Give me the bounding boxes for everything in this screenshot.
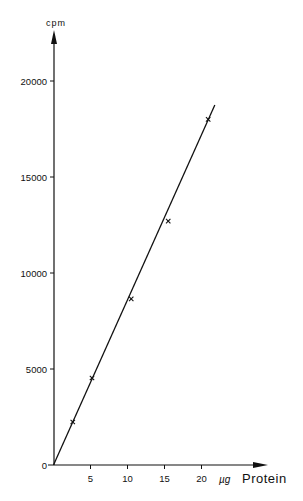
x-axis-unit: µg — [219, 474, 231, 485]
x-tick-label: 10 — [122, 473, 133, 484]
x-tick-label: 15 — [159, 473, 170, 484]
x-tick-label: 5 — [88, 473, 93, 484]
y-tick-label: 5000 — [26, 364, 47, 375]
y-axis: cpm — [46, 18, 66, 465]
y-tick-label: 0 — [42, 460, 47, 471]
y-axis-arrow-icon — [51, 30, 57, 44]
x-ticks: 5101520 — [88, 465, 207, 484]
x-marker-icon — [129, 297, 133, 301]
y-axis-title: cpm — [46, 18, 66, 28]
x-tick-label: 20 — [196, 473, 207, 484]
chart-canvas: cpm µg Protein 05000100001500020000 5101… — [0, 0, 303, 501]
y-tick-label: 15000 — [21, 172, 47, 183]
x-axis-title: Protein — [242, 471, 287, 486]
y-tick-label: 20000 — [21, 76, 47, 87]
x-marker-icon — [166, 219, 170, 223]
regression-line — [54, 105, 215, 465]
y-tick-label: 10000 — [21, 268, 47, 279]
y-ticks: 05000100001500020000 — [21, 76, 54, 471]
x-axis-arrow-icon — [253, 462, 268, 468]
